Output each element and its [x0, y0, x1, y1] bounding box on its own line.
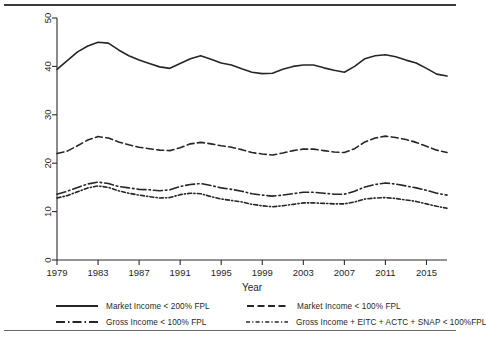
y-axis-ticks: 01020304050: [42, 13, 57, 263]
x-tick-label: 2015: [416, 267, 437, 278]
y-tick-label: 0: [42, 257, 53, 262]
legend-item-gross-income-100[interactable]: Gross Income < 100% FPL: [55, 317, 245, 327]
legend-row-2: Gross Income < 100% FPL Gross Income + E…: [55, 314, 455, 330]
legend-swatch-solid: [55, 301, 99, 311]
chart-legend: Market Income < 200% FPL Market Income <…: [55, 298, 455, 330]
legend-item-gross-income-transfers[interactable]: Gross Income + EITC + ACTC + SNAP < 100%…: [245, 317, 455, 327]
series-line-3: [57, 186, 447, 208]
x-tick-label: 2011: [375, 267, 395, 278]
legend-label-market-income-200: Market Income < 200% FPL: [106, 302, 210, 311]
data-series-group: [57, 42, 447, 208]
x-tick-label: 1983: [87, 267, 108, 278]
bottom-rule: [4, 330, 456, 331]
x-tick-label: 1979: [46, 267, 67, 278]
y-tick-label: 50: [42, 13, 53, 24]
y-tick-label: 40: [42, 61, 53, 72]
legend-label-gross-income-100: Gross Income < 100% FPL: [106, 318, 206, 327]
x-tick-label: 1987: [129, 267, 150, 278]
x-axis-title: Year: [242, 282, 263, 293]
series-line-1: [57, 136, 447, 155]
legend-swatch-dotted: [245, 317, 289, 327]
legend-item-market-income-200[interactable]: Market Income < 200% FPL: [55, 301, 246, 311]
x-tick-label: 2007: [334, 267, 355, 278]
legend-item-market-income-100[interactable]: Market Income < 100% FPL: [246, 301, 455, 311]
line-chart: 01020304050 1979198319871991199519992003…: [0, 10, 460, 300]
plot-area: 01020304050 1979198319871991199519992003…: [0, 10, 460, 300]
x-tick-label: 2003: [293, 267, 314, 278]
y-tick-label: 20: [42, 158, 53, 169]
x-tick-label: 1991: [170, 267, 191, 278]
y-tick-label: 30: [42, 110, 53, 121]
legend-label-market-income-100: Market Income < 100% FPL: [297, 302, 401, 311]
legend-row-1: Market Income < 200% FPL Market Income <…: [55, 298, 455, 314]
top-rule: [4, 4, 456, 6]
y-tick-label: 10: [42, 206, 53, 217]
x-tick-label: 1999: [252, 267, 273, 278]
series-line-0: [57, 42, 447, 76]
x-axis-ticks: 1979198319871991199519992003200720112015: [46, 260, 437, 278]
legend-swatch-dashdot: [55, 317, 99, 327]
legend-label-gross-income-transfers: Gross Income + EITC + ACTC + SNAP < 100%…: [296, 318, 486, 327]
legend-swatch-dashed: [246, 301, 290, 311]
axes-group: [57, 18, 447, 260]
x-tick-label: 1995: [211, 267, 232, 278]
